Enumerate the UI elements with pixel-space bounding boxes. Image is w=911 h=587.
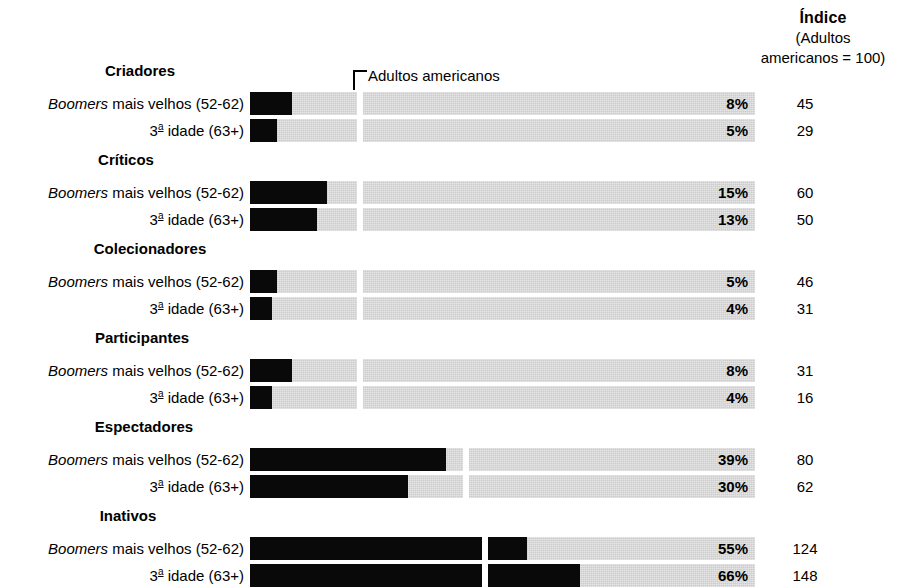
bar-percent-label: 8%: [726, 359, 748, 382]
bar-fill: [250, 386, 272, 409]
reference-gap-marker: [357, 386, 363, 409]
bar-percent-label: 4%: [726, 297, 748, 320]
bar-track: 55%: [250, 537, 755, 560]
bar-fill: [250, 564, 580, 587]
reference-gap-marker: [357, 297, 363, 320]
bar-fill: [250, 92, 292, 115]
bar-row: Boomers mais velhos (52-62)8%31: [0, 359, 911, 382]
group-title: Inativos: [8, 507, 248, 524]
reference-gap-marker: [357, 208, 363, 231]
index-value: 50: [765, 208, 845, 231]
bar-row-label: Boomers mais velhos (52-62): [0, 181, 244, 204]
bar-row-label: Boomers mais velhos (52-62): [0, 92, 244, 115]
bar-track: 66%: [250, 564, 755, 587]
bar-row-label: Boomers mais velhos (52-62): [0, 537, 244, 560]
reference-gap-marker: [357, 119, 363, 142]
bar-track: 4%: [250, 297, 755, 320]
bar-row-label: Boomers mais velhos (52-62): [0, 270, 244, 293]
bar-percent-label: 30%: [718, 475, 748, 498]
bar-row: 3a idade (63+)5%29: [0, 119, 911, 142]
reference-gap-marker: [463, 448, 469, 471]
reference-gap-marker: [482, 537, 488, 560]
bar-fill: [250, 208, 317, 231]
bar-row-label: 3a idade (63+): [0, 386, 244, 409]
bar-percent-label: 5%: [726, 119, 748, 142]
group-title: Criadores: [20, 62, 260, 79]
bar-row: Boomers mais velhos (52-62)55%124: [0, 537, 911, 560]
reference-gap-marker: [357, 181, 363, 204]
bar-row: Boomers mais velhos (52-62)5%46: [0, 270, 911, 293]
bar-percent-label: 5%: [726, 270, 748, 293]
index-value: 62: [765, 475, 845, 498]
index-value: 31: [765, 297, 845, 320]
index-value: 29: [765, 119, 845, 142]
bar-row-label: 3a idade (63+): [0, 119, 244, 142]
bar-row-label: Boomers mais velhos (52-62): [0, 359, 244, 382]
bar-percent-label: 55%: [718, 537, 748, 560]
bar-row-label: 3a idade (63+): [0, 208, 244, 231]
bar-track: 4%: [250, 386, 755, 409]
index-value: 16: [765, 386, 845, 409]
bar-row-label: Boomers mais velhos (52-62): [0, 448, 244, 471]
bar-track: 8%: [250, 92, 755, 115]
bar-row: Boomers mais velhos (52-62)15%60: [0, 181, 911, 204]
bar-fill: [250, 297, 272, 320]
reference-gap-marker: [357, 92, 363, 115]
bar-fill: [250, 359, 292, 382]
index-value: 45: [765, 92, 845, 115]
index-value: 80: [765, 448, 845, 471]
bar-row: 3a idade (63+)30%62: [0, 475, 911, 498]
group-title: Críticos: [6, 151, 246, 168]
index-value: 60: [765, 181, 845, 204]
bar-track: 15%: [250, 181, 755, 204]
bar-percent-label: 4%: [726, 386, 748, 409]
reference-gap-marker: [357, 270, 363, 293]
bar-row: 3a idade (63+)13%50: [0, 208, 911, 231]
bar-row-label: 3a idade (63+): [0, 297, 244, 320]
reference-gap-marker: [357, 359, 363, 382]
bar-track: 30%: [250, 475, 755, 498]
bar-row: 3a idade (63+)66%148: [0, 564, 911, 587]
bar-fill: [250, 181, 327, 204]
bar-row: 3a idade (63+)4%16: [0, 386, 911, 409]
bar-row: 3a idade (63+)4%31: [0, 297, 911, 320]
bar-percent-label: 66%: [718, 564, 748, 587]
bar-track: 39%: [250, 448, 755, 471]
bar-fill: [250, 448, 446, 471]
group-title: Espectadores: [24, 418, 264, 435]
index-value: 46: [765, 270, 845, 293]
bar-fill: [250, 119, 277, 142]
bar-percent-label: 13%: [718, 208, 748, 231]
bar-percent-label: 15%: [718, 181, 748, 204]
bar-row: Boomers mais velhos (52-62)8%45: [0, 92, 911, 115]
group-title: Colecionadores: [30, 240, 270, 257]
reference-gap-marker: [482, 564, 488, 587]
bar-fill: [250, 270, 277, 293]
bar-row-label: 3a idade (63+): [0, 564, 244, 587]
group-title: Participantes: [22, 329, 262, 346]
index-value: 148: [765, 564, 845, 587]
bar-percent-label: 8%: [726, 92, 748, 115]
bar-fill: [250, 475, 408, 498]
bar-track: 5%: [250, 119, 755, 142]
index-value: 124: [765, 537, 845, 560]
bar-row-label: 3a idade (63+): [0, 475, 244, 498]
bar-track: 5%: [250, 270, 755, 293]
bar-row: Boomers mais velhos (52-62)39%80: [0, 448, 911, 471]
bar-track: 8%: [250, 359, 755, 382]
index-value: 31: [765, 359, 845, 382]
bar-percent-label: 39%: [718, 448, 748, 471]
reference-gap-marker: [463, 475, 469, 498]
bar-track: 13%: [250, 208, 755, 231]
